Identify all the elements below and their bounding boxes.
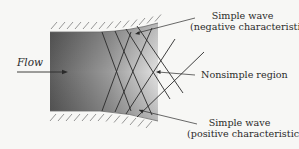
nonsimple-region-label: Nonsimple region	[201, 69, 288, 80]
negative-label-line1: Simple wave	[190, 10, 295, 21]
positive-label-line2: (positive characteristic)	[187, 128, 292, 139]
positive-label-line1: Simple wave	[187, 117, 292, 128]
flow-label: Flow	[17, 57, 43, 68]
expansion-duct-diagram: Flow Simple wave (negative characteristi…	[0, 0, 299, 149]
negative-label-line2: (negative characteristic)	[190, 21, 295, 32]
positive-characteristic-label: Simple wave (positive characteristic)	[187, 117, 292, 139]
negative-characteristic-label: Simple wave (negative characteristic)	[190, 10, 295, 32]
